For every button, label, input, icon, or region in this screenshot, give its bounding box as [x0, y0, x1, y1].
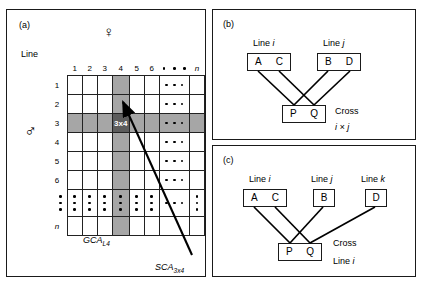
panel-b-label: (b): [223, 20, 234, 29]
row-header-3: 3: [51, 114, 67, 133]
grid-cell: [144, 76, 159, 95]
grid-cell: [82, 76, 97, 95]
table-row: 6: [51, 171, 205, 190]
table-row-gca-l3: 3 3x4: [51, 114, 205, 133]
grid-cell: [67, 171, 82, 190]
allele-Q: Q: [306, 247, 314, 257]
grid-cell-ellipsis: [159, 133, 189, 152]
panel-c-line-j-box: B: [313, 189, 335, 207]
figure-root: (a) ♀ ♂ Line 1 2 3 4 5 6: [0, 0, 422, 284]
col-header-n: n: [190, 62, 205, 76]
table-row: 5: [51, 152, 205, 171]
grid-cell: [82, 171, 97, 190]
grid-cell-col4: [112, 152, 129, 171]
table-row-ellipsis: [51, 190, 205, 217]
row-header-5: 5: [51, 152, 67, 171]
col-header-2: 2: [82, 62, 97, 76]
panel-c-cross-label: Cross: [333, 238, 357, 249]
col-header-ellipsis: [159, 62, 189, 76]
sca-label: SCA3x4: [155, 263, 184, 275]
grid-cell-row3: [144, 114, 159, 133]
panel-c-line-k-box: D: [365, 189, 387, 207]
panel-c-cross-detail: Line i: [333, 256, 355, 267]
table-row-n: n: [51, 217, 205, 236]
table-row: 2: [51, 95, 205, 114]
panel-b-progeny-box: P Q: [282, 105, 326, 123]
grid-cell: [190, 152, 205, 171]
grid-cell-col4: [112, 133, 129, 152]
ellipsis-dot: [173, 67, 176, 70]
grid-cell-vellipsis: [97, 190, 112, 217]
row-header-2: 2: [51, 95, 67, 114]
grid-cell: [97, 76, 112, 95]
grid-cell-vellipsis: [67, 190, 82, 217]
grid-cell-col4: [112, 95, 129, 114]
panel-c-line-k-title: Line k: [361, 175, 385, 184]
panel-b-cross-label: Cross: [335, 106, 359, 117]
grid-cell: [97, 152, 112, 171]
grid-cell: [190, 95, 205, 114]
grid-cell-ellipsis: [159, 171, 189, 190]
grid-cell-col4: [112, 76, 129, 95]
row-header-1: 1: [51, 76, 67, 95]
grid-cell-vellipsis: [190, 190, 205, 217]
grid-cell-ellipsis-center: [159, 190, 189, 217]
panel-b-line-i-box: A C: [247, 53, 291, 71]
row-header-4: 4: [51, 133, 67, 152]
panel-a: (a) ♀ ♂ Line 1 2 3 4 5 6: [6, 9, 206, 277]
row-header-6: 6: [51, 171, 67, 190]
ellipsis-dot: [163, 67, 166, 70]
panel-b-cross-detail: i × j: [335, 122, 349, 133]
grid-cell: [144, 95, 159, 114]
grid-cell-ellipsis: [159, 114, 189, 133]
grid-cell-ellipsis: [159, 76, 189, 95]
grid-cell: [129, 76, 144, 95]
allele-A: A: [255, 57, 262, 67]
table-row: 4: [51, 133, 205, 152]
grid-cell: [144, 133, 159, 152]
grid-cell: [97, 95, 112, 114]
panel-c-line-i-box: A C: [243, 189, 287, 207]
female-venus-symbol: ♀: [103, 24, 114, 39]
grid-cell: [67, 133, 82, 152]
panel-b: (b) Line i Line j A C B D P Q Cross: [212, 9, 416, 140]
allele-P: P: [286, 247, 293, 257]
grid-cell: [67, 95, 82, 114]
grid-cell-vellipsis: [129, 190, 144, 217]
grid-cell-ellipsis: [159, 152, 189, 171]
grid-cell-sca-3x4: 3x4: [112, 114, 129, 133]
grid-cell: [144, 217, 159, 236]
grid-cell-row3: [190, 114, 205, 133]
grid-cell: [67, 76, 82, 95]
grid-header-row: 1 2 3 4 5 6 n: [51, 62, 205, 76]
allele-C: C: [272, 193, 279, 203]
male-mars-symbol: ♂: [24, 122, 37, 139]
grid-cell-row3: [97, 114, 112, 133]
allele-C: C: [276, 57, 283, 67]
grid-cell: [97, 133, 112, 152]
gca-l4-label: GCAL4: [83, 236, 110, 248]
table-row: 1: [51, 76, 205, 95]
allele-A: A: [251, 193, 258, 203]
allele-B: B: [321, 193, 328, 203]
grid-cell: [67, 152, 82, 171]
diallel-grid: 1 2 3 4 5 6 n: [51, 62, 205, 236]
allele-D: D: [346, 57, 353, 67]
col-header-1: 1: [67, 62, 82, 76]
grid-cell: [97, 171, 112, 190]
grid-cell-col4: [112, 171, 129, 190]
grid-cell: [129, 171, 144, 190]
grid-cell: [129, 217, 144, 236]
grid-cell: [97, 217, 112, 236]
grid-cell: [82, 152, 97, 171]
grid-cell-vellipsis: [82, 190, 97, 217]
grid-cell: [190, 76, 205, 95]
grid-cell: [190, 133, 205, 152]
row-header-ellipsis: [51, 190, 67, 217]
grid-cell: [129, 95, 144, 114]
panel-a-label: (a): [19, 21, 30, 30]
grid-cell: [190, 217, 205, 236]
grid-cell-col4-vellipsis: [112, 190, 129, 217]
panel-b-line-j-box: B D: [317, 53, 361, 71]
grid-cell: [159, 217, 189, 236]
